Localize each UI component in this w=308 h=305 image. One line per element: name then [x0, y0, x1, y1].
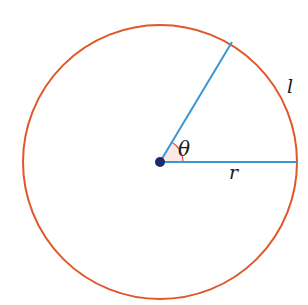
angle-label: θ [178, 137, 190, 161]
radius-label: r [229, 161, 240, 183]
circle-diagram: θ r l [0, 0, 308, 305]
arc-length-label: l [287, 75, 293, 97]
center-point [155, 157, 165, 167]
radius-line-angled [160, 42, 232, 162]
